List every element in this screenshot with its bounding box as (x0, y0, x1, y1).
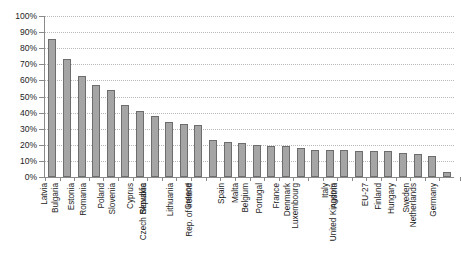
x-axis-tick (396, 177, 411, 181)
y-axis-label: 60% (20, 76, 37, 85)
bar-slot (264, 16, 279, 177)
bar-slot (45, 16, 60, 177)
bar-slot (279, 16, 294, 177)
y-axis-tick (39, 48, 44, 49)
x-axis-label: Cyprus (127, 183, 135, 209)
bar-slot (352, 16, 367, 177)
bar-slot (89, 16, 104, 177)
bar (282, 146, 290, 177)
x-axis-tick (176, 177, 191, 181)
x-axis-tick (118, 177, 133, 181)
x-axis-tick (381, 177, 396, 181)
x-axis-label: France (273, 183, 281, 208)
y-axis-tick (39, 64, 44, 65)
bar-slot (308, 16, 323, 177)
bar (180, 124, 188, 177)
x-axis-tick (337, 177, 352, 181)
bar (107, 90, 115, 177)
bar (78, 76, 86, 177)
y-axis-tick (39, 80, 44, 81)
x-axis-tick (133, 177, 148, 181)
x-axis-label: Netherlands (410, 183, 418, 227)
bar-slot (220, 16, 235, 177)
x-axis-tick (279, 177, 294, 181)
bar (194, 125, 202, 177)
bar (63, 59, 71, 177)
bar-slot (162, 16, 177, 177)
x-axis-label: Finland (375, 183, 383, 210)
bar-slot (206, 16, 221, 177)
x-axis-tick (206, 177, 221, 181)
x-axis-tick (74, 177, 89, 181)
y-axis-label: 10% (20, 157, 37, 166)
y-axis-tick (39, 129, 44, 130)
bar (209, 140, 217, 177)
x-axis-label: Romania (80, 183, 88, 216)
x-axis-tick (425, 177, 440, 181)
bar (253, 145, 261, 177)
x-axis-label: Latvia (41, 183, 49, 205)
bar-slot (439, 16, 454, 177)
x-axis-label: Czech Republic (141, 183, 149, 240)
bar-slot (366, 16, 381, 177)
bar-series (45, 16, 454, 177)
bar (136, 111, 144, 177)
y-axis-label: 70% (20, 60, 37, 69)
x-axis-label: United Kingdom (330, 183, 338, 241)
x-axis-tick (235, 177, 250, 181)
bar (414, 154, 422, 177)
x-axis-label: Slovenia (110, 183, 118, 214)
x-axis-label: Poland (98, 183, 106, 209)
y-axis-label: 30% (20, 124, 37, 133)
bar-slot (337, 16, 352, 177)
x-axis-labels: LatviaBulgariaEstoniaRomaniaPolandSloven… (45, 183, 454, 261)
y-axis-tick (39, 97, 44, 98)
y-axis-label: 40% (20, 108, 37, 117)
bar (370, 151, 378, 177)
x-axis-label: Rep. of Ireland (186, 183, 194, 237)
x-axis-label: EU-27 (362, 183, 370, 206)
bar (151, 116, 159, 177)
bar (224, 142, 232, 177)
x-axis-tick (147, 177, 162, 181)
bar (267, 146, 275, 177)
bar-slot (74, 16, 89, 177)
bar-slot (118, 16, 133, 177)
bar-slot (323, 16, 338, 177)
x-axis-tick (103, 177, 118, 181)
bar-slot (176, 16, 191, 177)
bar-slot (396, 16, 411, 177)
x-axis-label-slot: Germany (439, 183, 454, 261)
x-axis-label: Spain (217, 183, 225, 204)
x-axis-label: Bulgaria (52, 183, 60, 213)
x-axis-label: Hungary (387, 183, 395, 214)
y-axis-label: 80% (20, 44, 37, 53)
bar-slot (60, 16, 75, 177)
bar (238, 143, 246, 177)
x-axis-tick (162, 177, 177, 181)
x-axis-label: Malta (232, 183, 240, 203)
bar-slot (381, 16, 396, 177)
bar-slot (250, 16, 265, 177)
y-axis-tick (39, 16, 44, 17)
bar (48, 39, 56, 177)
x-axis-tick (323, 177, 338, 181)
x-axis-tick (308, 177, 323, 181)
x-axis-tick (89, 177, 104, 181)
bar-slot (191, 16, 206, 177)
bar (92, 85, 100, 177)
x-axis-tick (250, 177, 265, 181)
x-axis-tick (220, 177, 235, 181)
bar-slot (103, 16, 118, 177)
bar-chart: 0%10%20%30%40%50%60%70%80%90%100% Latvia… (0, 0, 461, 263)
y-axis-label: 50% (20, 92, 37, 101)
y-axis-label: 90% (20, 28, 37, 37)
x-axis-label: Estonia (68, 183, 76, 210)
bar-slot (410, 16, 425, 177)
bar (355, 151, 363, 177)
y-axis-tick (39, 177, 44, 178)
bar-slot (235, 16, 250, 177)
x-axis-label: Belgium (242, 183, 250, 213)
x-axis-label-slot: Austria (337, 183, 352, 261)
x-axis-tick (366, 177, 381, 181)
